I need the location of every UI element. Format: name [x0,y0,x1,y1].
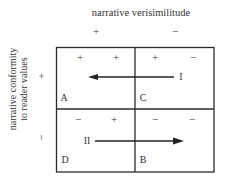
cell-b-sign-2: − [189,114,195,125]
cell-a-label: A [60,93,67,103]
arrow-ii [95,138,184,145]
cell-b-label: B [140,155,147,165]
cell-b-sign-1: − [152,114,158,125]
arrowhead-left-icon [88,74,98,80]
arrow-ii-label: II [84,136,91,146]
cell-c-sign-2: − [190,52,196,63]
arrow-i [88,74,174,80]
quadrant-grid [0,0,227,178]
cell-c-sign-1: + [152,52,158,63]
arrowhead-right-icon [173,138,184,145]
cell-a-sign-2: + [113,52,119,63]
cell-a-sign-1: + [77,52,83,63]
cell-d-sign-2: + [111,114,117,125]
arrow-i-label: I [179,72,182,82]
cell-c-label: C [140,93,147,103]
cell-d-sign-1: − [75,114,81,125]
cell-d-label: D [61,155,68,165]
